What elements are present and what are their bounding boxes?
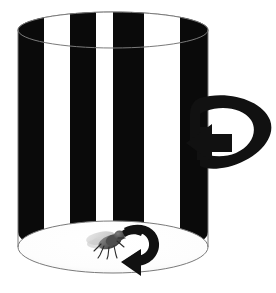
drum-illustration: A tall cylinder painted with alternating… xyxy=(0,0,276,293)
figure-container: A tall cylinder painted with alternating… xyxy=(0,0,276,293)
rim-stripe-1 xyxy=(18,12,44,32)
rim-stripe-2 xyxy=(70,12,96,32)
rim-stripe-3 xyxy=(113,12,144,32)
drum-rotation-arrow xyxy=(186,95,271,169)
rim-stripe-4 xyxy=(180,12,208,32)
stripe-dark-1 xyxy=(18,4,44,268)
